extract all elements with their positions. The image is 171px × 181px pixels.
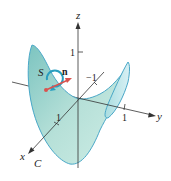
z-axis-arrowhead [76,22,81,29]
surface-label: S [38,66,44,78]
stokes-surface-diagram: z 1 y 1 x 1 −1 n S C [0,0,171,181]
neg-x-tick-label: −1 [86,72,97,83]
y-axis-arrowhead [148,113,156,118]
z-tick-label: 1 [70,47,75,58]
boundary-curve-label: C [34,157,42,169]
normal-arrowhead [65,78,72,83]
y-axis-label: y [156,110,162,122]
y-tick-label: 1 [122,112,127,123]
x-tick-label: 1 [56,112,61,123]
z-axis-label: z [75,9,81,21]
x-axis-label: x [19,150,25,162]
normal-label: n [62,66,68,77]
